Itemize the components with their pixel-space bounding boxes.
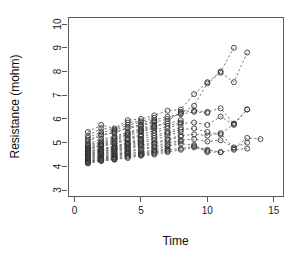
series-layer <box>85 45 263 166</box>
series-line <box>88 147 207 162</box>
y-axis-title-text: Resistance (mohm) <box>8 54 22 158</box>
y-tick-label: 3 <box>53 187 64 193</box>
resistance-vs-time-chart: 051015345678910TimeResistance (mohm) Tim… <box>0 0 298 257</box>
y-tick-label: 8 <box>53 68 64 74</box>
y-tick-label: 5 <box>53 139 64 145</box>
y-tick-label: 6 <box>53 116 64 122</box>
x-tick-label: 15 <box>268 205 280 216</box>
data-point <box>165 108 170 113</box>
y-tick-label: 9 <box>53 45 64 51</box>
x-tick-label: 10 <box>202 205 214 216</box>
x-tick-label: 0 <box>72 205 78 216</box>
data-series <box>85 141 249 161</box>
data-point <box>245 140 250 145</box>
y-tick-label: 10 <box>53 18 64 30</box>
x-axis-title-text: Time <box>162 234 189 248</box>
y-tick-label: 4 <box>53 163 64 169</box>
series-line <box>88 48 234 132</box>
plot-svg: 051015345678910TimeResistance (mohm) <box>0 0 298 257</box>
x-tick-label: 5 <box>138 205 144 216</box>
plot-box <box>68 17 283 196</box>
y-tick-label: 7 <box>53 92 64 98</box>
data-series <box>85 122 156 147</box>
data-series <box>85 145 209 165</box>
data-point <box>192 92 197 97</box>
data-series <box>85 137 249 160</box>
labels-layer: 051015345678910TimeResistance (mohm) <box>8 18 280 248</box>
